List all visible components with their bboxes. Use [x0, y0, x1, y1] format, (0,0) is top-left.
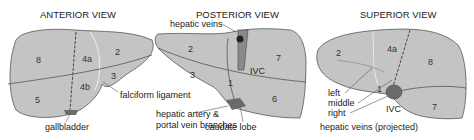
- segment-3: 3: [190, 70, 195, 80]
- left-vein-label: left: [328, 88, 341, 98]
- anterior-title: ANTERIOR VIEW: [40, 9, 116, 20]
- ivc-superior-shape: [386, 85, 402, 99]
- hepatic-veins-label: hepatic veins: [170, 19, 223, 29]
- segment-4a: 4a: [387, 44, 397, 54]
- segment-5: 5: [35, 95, 40, 105]
- hepatic-veins-leader: [222, 24, 236, 32]
- segment-6: 6: [272, 94, 277, 104]
- liver-segments-diagram: ANTERIOR VIEW 8 4a 2 3 4b 5 falciform li…: [0, 0, 474, 140]
- segment-4b: 4b: [80, 82, 90, 92]
- right-leader: [350, 96, 388, 113]
- middle-vein-label: middle: [328, 98, 355, 108]
- segment-7: 7: [432, 102, 437, 112]
- segment-2: 2: [115, 47, 120, 57]
- gallbladder-shape: [64, 110, 78, 115]
- segment-7: 7: [276, 53, 281, 63]
- superior-title: SUPERIOR VIEW: [360, 9, 437, 20]
- ivc-label: IVC: [250, 66, 266, 76]
- caudate-lobe-label: caudate lobe: [205, 122, 257, 132]
- hepatic-veins-ostia: [237, 36, 244, 43]
- segment-1: 1: [377, 84, 382, 94]
- segment-2: 2: [188, 44, 193, 54]
- right-vein-label: right: [328, 108, 346, 118]
- falciform-ligament-label: falciform ligament: [120, 90, 191, 100]
- posterior-view: POSTERIOR VIEW 2 3 1 7 6 hepatic veins I…: [155, 9, 306, 132]
- segment-8: 8: [36, 55, 41, 65]
- hepatic-veins-projected-label: hepatic veins (projected): [320, 122, 418, 132]
- hepatic-artery-label: hepatic artery &: [156, 109, 219, 119]
- anterior-liver-shape: [10, 29, 153, 117]
- segment-3: 3: [111, 71, 116, 81]
- segment-4a: 4a: [82, 54, 92, 64]
- gallbladder-label: gallbladder: [45, 122, 89, 132]
- segment-8: 8: [428, 57, 433, 67]
- superior-view: SUPERIOR VIEW 2 4a 8 1 7 left middle rig…: [317, 9, 466, 132]
- segment-1: 1: [228, 78, 233, 88]
- ivc-superior-label: IVC: [386, 104, 402, 114]
- segment-2: 2: [336, 48, 341, 58]
